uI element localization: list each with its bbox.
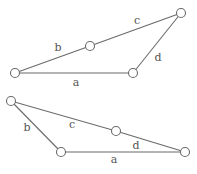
top-label-a: a	[73, 76, 80, 89]
bottom-node-2	[57, 148, 66, 157]
bottom-label-d: d	[132, 139, 139, 152]
top-node-1	[11, 69, 20, 78]
diagram-canvas: a b c d a b c d	[0, 0, 197, 174]
bottom-node-3	[112, 127, 121, 136]
bottom-figure: a b c d	[7, 97, 190, 167]
top-node-2	[86, 42, 95, 51]
bottom-label-a: a	[111, 153, 118, 166]
top-edge-b	[15, 46, 90, 73]
bottom-node-4	[181, 148, 190, 157]
top-node-3	[177, 9, 186, 18]
top-figure: a b c d	[11, 9, 186, 90]
bottom-label-c: c	[69, 118, 75, 131]
top-node-4	[129, 69, 138, 78]
bottom-node-1	[7, 97, 16, 106]
top-label-b: b	[54, 41, 61, 54]
bottom-edge-d	[116, 131, 185, 152]
top-label-d: d	[154, 51, 161, 64]
top-label-c: c	[134, 14, 140, 27]
bottom-label-b: b	[23, 121, 30, 134]
